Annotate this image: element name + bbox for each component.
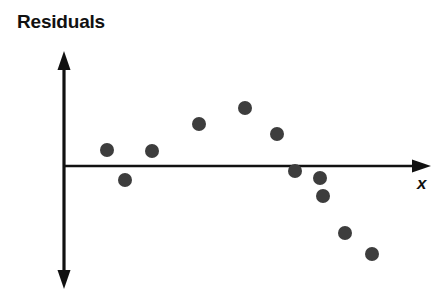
data-point (288, 164, 302, 178)
data-point (145, 144, 159, 158)
data-point (118, 173, 132, 187)
data-point (365, 247, 379, 261)
data-point (192, 117, 206, 131)
data-point (100, 143, 114, 157)
residual-scatter-plot (0, 0, 444, 298)
residual-plot-figure: Residuals x (0, 0, 444, 298)
data-points (100, 101, 379, 261)
x-axis-right-arrowhead (412, 160, 431, 173)
y-axis-down-arrowhead (58, 270, 71, 289)
data-point (316, 189, 330, 203)
data-point (313, 171, 327, 185)
data-point (238, 101, 252, 115)
data-point (270, 127, 284, 141)
y-axis-up-arrowhead (58, 51, 71, 70)
x-axis-label: x (417, 174, 426, 194)
data-point (338, 226, 352, 240)
